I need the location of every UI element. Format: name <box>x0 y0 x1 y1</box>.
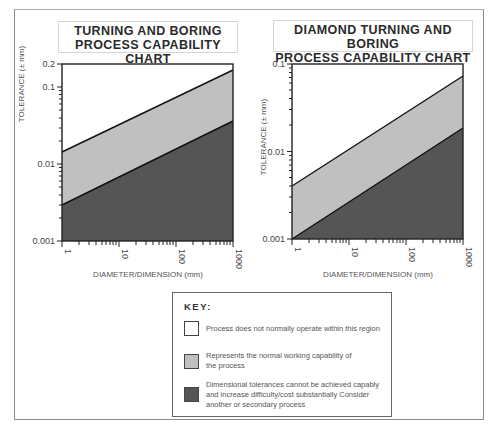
x-tick-label: 100 <box>407 247 417 262</box>
y-axis-title: TOLERANCE (± mm) <box>17 46 26 123</box>
legend-key-box: KEY: Process does not normally operate w… <box>172 292 392 417</box>
x-axis-title: DIAMETER/DIMENSION (mm) <box>323 270 433 279</box>
x-tick-label: 100 <box>177 249 187 264</box>
x-axis-ticks <box>292 239 463 245</box>
x-axis-ticks <box>62 241 233 247</box>
chart-diamond-turning-and-boring: 0.1 0.01 0.001 1 10 100 1000 DIAMETER/DI… <box>259 59 474 279</box>
x-tick-label: 1000 <box>464 247 474 267</box>
x-axis-title: DIAMETER/DIMENSION (mm) <box>93 270 203 279</box>
x-tick-label: 10 <box>350 247 360 257</box>
legend-swatch-light-gray <box>184 354 199 369</box>
x-tick-label: 1 <box>63 249 73 254</box>
legend-item-label: Represents the normal working capability… <box>206 351 356 371</box>
y-tick-label: 0.1 <box>272 59 285 69</box>
y-axis-ticks <box>287 64 292 239</box>
legend-swatch-dark-gray <box>184 387 199 402</box>
x-tick-label: 1000 <box>234 249 244 269</box>
y-axis-ticks <box>57 64 62 241</box>
y-tick-label: 0.1 <box>42 82 55 92</box>
legend-item-normal-capability: Represents the normal working capability… <box>184 351 356 371</box>
legend-item-label: Dimensional tolerances cannot be achieve… <box>206 380 381 410</box>
x-tick-label: 1 <box>293 247 303 252</box>
legend-swatch-white <box>184 321 199 336</box>
legend-item-not-operated: Process does not normally operate within… <box>184 321 386 336</box>
y-tick-label: 0.2 <box>42 59 55 69</box>
legend-item-not-achievable: Dimensional tolerances cannot be achieve… <box>184 380 381 410</box>
legend-item-label: Process does not normally operate within… <box>206 324 386 334</box>
y-tick-label: 0.01 <box>267 147 285 157</box>
x-tick-label: 10 <box>120 249 130 259</box>
legend-title: KEY: <box>184 301 212 312</box>
y-tick-label: 0.01 <box>37 159 55 169</box>
y-tick-label: 0.001 <box>32 236 55 246</box>
y-tick-label: 0.001 <box>262 234 285 244</box>
y-axis-title: TOLERANCE (± mm) <box>259 99 268 176</box>
chart-turning-and-boring: 0.2 0.1 0.01 0.001 1 10 100 1000 DIAMETE… <box>17 46 244 279</box>
charts-svg: 0.2 0.1 0.01 0.001 1 10 100 1000 DIAMETE… <box>0 0 495 290</box>
